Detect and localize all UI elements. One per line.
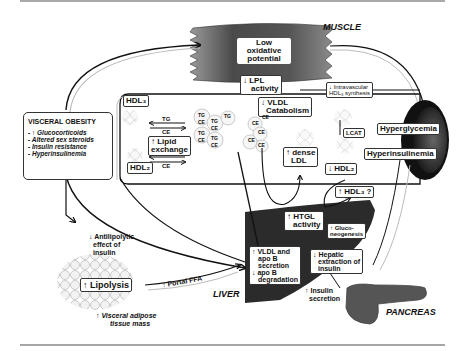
pancreas-shape [346,284,426,324]
lcat-box: LCAT [343,128,365,138]
ce-arrow-label: CE [162,163,170,169]
particle-label: TG [198,113,205,118]
particle-label: TG [211,136,218,141]
particle-label: CE [198,120,205,125]
particle-label: CE [198,138,205,143]
particle-label: CE [258,130,265,135]
gluconeogenesis-box: ↑ Gluco- neogenesis [327,223,366,239]
diagram-root: MUSCLE LIVER PANCREAS Low oxidative pote… [0,0,467,351]
hdl3-label: HDL₃ [123,95,149,107]
hdl2-label: HDL₂ [127,162,153,174]
antilipolytic-label: ↓ Antilipolytic effect of insulin [89,233,134,257]
htgl-activity-box: ↑ HTGL activity [284,211,324,231]
region-liver: LIVER [213,289,240,299]
particle-label: TG [211,119,218,124]
ce-arrow-label: CE [162,129,170,135]
tg-arrow-label: TG [162,116,170,122]
lpl-activity-box: ↓ LPL activity [240,75,282,95]
hyperinsulinemia-box: Hyperinsulinemia [364,148,437,160]
intravascular-hdl3-box: ↓ Intravascular HDL₃ synthesis [326,82,373,98]
lipid-exchange-box: ↑ Lipid exchange [148,136,191,156]
hepatic-extraction-box: ↓ Hepatic extraction of insulin [310,249,363,274]
hdl3-question-box: ↑ HDL₃ ? [335,186,374,198]
region-muscle: MUSCLE [323,22,361,32]
region-pancreas: PANCREAS [386,307,436,317]
low-oxidative-potential-box: Low oxidative potential [237,38,291,64]
insulin-secretion-label: ↑ Insulin secretion [305,287,340,303]
hyperglycemia-box: Hyperglycemia [377,123,440,135]
lipolysis-box: ↑ Lipolysis [80,278,132,292]
dense-ldl-box: ↑ dense LDL [283,147,318,167]
particle-label: CE [262,115,269,120]
visceral-adipose-label: ↑ Visceral adipose tissue mass [96,312,156,328]
particle-label: TG [198,131,205,136]
particle-label: CE [252,121,259,126]
particle-label: CE [211,143,218,148]
vldl-secretion-box: ↑ VLDL and apo B secretion ↓ apo B degra… [249,246,301,285]
visceral-obesity-box: VISCERAL OBESITY - ↑ Glucocorticoids - A… [23,112,113,180]
particle-label: CE [258,143,265,148]
particle-label: TG [224,114,231,119]
particle-label: CE [248,138,255,143]
hdl2-decrease-box: ↓ HDL₂ [325,163,357,175]
particle-label: CE [211,126,218,131]
